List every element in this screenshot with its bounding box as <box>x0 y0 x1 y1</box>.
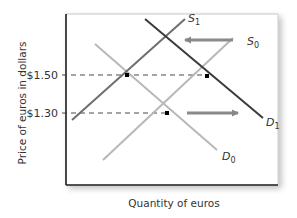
tick-label-1-30: $1.30 <box>27 107 59 120</box>
y-axis-label: Price of euros in dollars <box>16 42 28 165</box>
tick-label-1-50: $1.50 <box>27 69 59 82</box>
equilibrium-point-s0-d0 <box>165 111 169 115</box>
equilibrium-point-s0-d1 <box>205 74 209 78</box>
x-axis-label: Quantity of euros <box>128 197 219 209</box>
equilibrium-point-s1-d0 <box>125 73 129 77</box>
supply-demand-chart: $1.50 $1.30 S1 S0 D1 D0 Quantity of euro… <box>0 0 297 218</box>
